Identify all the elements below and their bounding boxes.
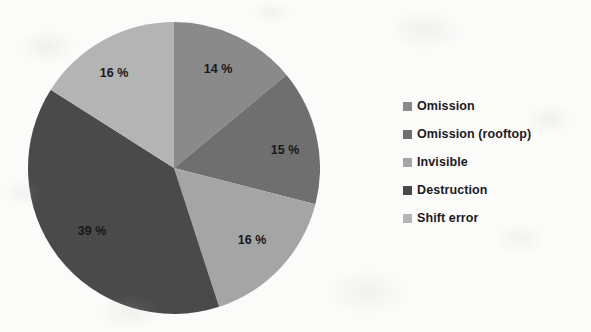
legend-item[interactable]: Invisible — [403, 148, 583, 176]
pie-data-label: 14 % — [204, 62, 233, 76]
legend-item-label: Omission — [417, 99, 475, 113]
legend-swatch-icon — [403, 186, 412, 195]
legend-item-label: Shift error — [417, 211, 479, 225]
pie-graphic: 14 %15 %16 %39 %16 % — [28, 22, 320, 314]
pie-slice-group — [28, 22, 320, 314]
legend-item[interactable]: Destruction — [403, 176, 583, 204]
legend-swatch-icon — [403, 130, 412, 139]
pie-data-label: 15 % — [271, 143, 300, 157]
chart-legend: Omission Omission (rooftop) Invisible De… — [403, 92, 583, 232]
legend-item[interactable]: Shift error — [403, 204, 583, 232]
legend-item[interactable]: Omission (rooftop) — [403, 120, 583, 148]
pie-data-label: 39 % — [78, 224, 107, 238]
pie-svg: 14 %15 %16 %39 %16 % — [28, 22, 320, 314]
legend-swatch-icon — [403, 102, 412, 111]
pie-data-label: 16 % — [100, 66, 129, 80]
pie-chart-figure: 14 %15 %16 %39 %16 % Omission Omission (… — [0, 0, 591, 332]
legend-item-label: Omission (rooftop) — [417, 127, 531, 141]
legend-swatch-icon — [403, 214, 412, 223]
legend-item[interactable]: Omission — [403, 92, 583, 120]
legend-item-label: Destruction — [417, 183, 488, 197]
legend-item-label: Invisible — [417, 155, 468, 169]
legend-swatch-icon — [403, 158, 412, 167]
pie-data-label: 16 % — [238, 233, 267, 247]
